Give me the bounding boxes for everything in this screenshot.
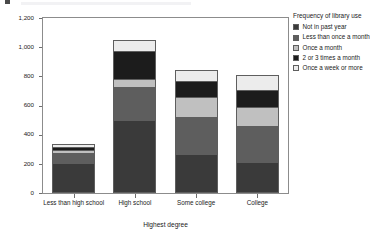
cropped-title-artifact [3,0,203,5]
legend-item-label: Not in past year [303,24,347,30]
legend-item-label: 2 or 3 times a month [303,55,360,61]
y-tick-label: 1,200 [0,15,34,21]
bar-segment[interactable] [113,120,156,193]
bar-segment[interactable] [236,90,279,107]
bar-less-than-high-school[interactable] [52,144,95,193]
legend-swatch-icon [293,65,299,71]
bar-segment[interactable] [175,97,218,117]
bar-some-college[interactable] [175,70,218,193]
x-tick-label: College [221,199,293,207]
bar-segment[interactable] [236,75,279,90]
bar-college[interactable] [236,75,279,193]
y-tick-label: 0 [0,190,34,196]
legend-title: Frequency of library use [293,13,386,19]
legend-swatch-icon [293,35,299,41]
y-tick-label: 400 [0,131,34,137]
legend: Frequency of library use Not in past yea… [293,13,386,75]
stacked-bar-chart-figure: Count 02004006008001,0001,200 Less than … [0,0,386,238]
x-tick-mark [74,194,75,198]
bar-segment[interactable] [175,81,218,97]
legend-item-label: Less than once a month [303,34,370,40]
y-tick-mark [39,47,42,48]
bar-high-school[interactable] [113,40,156,193]
legend-item-label: Once a month [303,45,343,51]
y-tick-label: 800 [0,73,34,79]
legend-item-label: Once a week or more [303,65,363,71]
bar-segment[interactable] [52,153,95,162]
legend-item[interactable]: Not in past year [293,24,386,31]
bar-segment[interactable] [52,163,95,193]
y-tick-mark [39,193,42,194]
bar-segment[interactable] [236,107,279,126]
y-tick-mark [39,76,42,77]
bar-segment[interactable] [175,154,218,193]
legend-item[interactable]: 2 or 3 times a month [293,54,386,61]
legend-item-list: Not in past yearLess than once a monthOn… [293,24,386,72]
y-tick-mark [39,106,42,107]
bar-segment[interactable] [175,70,218,81]
bars-layer [43,18,288,193]
legend-item[interactable]: Less than once a month [293,34,386,41]
x-axis-title: Highest degree [42,222,289,229]
bar-segment[interactable] [236,126,279,161]
legend-swatch-icon [293,55,299,61]
bar-segment[interactable] [113,40,156,51]
artifact-glyph [5,0,10,4]
x-tick-mark [135,194,136,198]
y-tick-label: 1,000 [0,44,34,50]
x-tick-mark [257,194,258,198]
artifact-text-ghost [21,2,191,5]
legend-swatch-icon [293,45,299,51]
bar-segment[interactable] [113,87,156,121]
y-tick-mark [39,164,42,165]
y-tick-label: 600 [0,102,34,108]
y-tick-mark [39,18,42,19]
bar-segment[interactable] [113,79,156,87]
bar-segment[interactable] [113,51,156,79]
x-tick-mark [196,194,197,198]
legend-item[interactable]: Once a week or more [293,65,386,72]
y-tick-label: 200 [0,161,34,167]
bar-segment[interactable] [236,162,279,194]
y-tick-mark [39,135,42,136]
legend-item[interactable]: Once a month [293,44,386,51]
bar-segment[interactable] [175,117,218,154]
legend-swatch-icon [293,24,299,30]
